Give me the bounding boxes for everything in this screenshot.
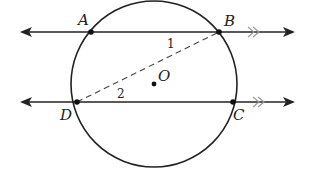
angle-2-label: 2 [117,87,125,101]
point-c [230,99,236,105]
label-d: D [59,106,72,124]
label-o: O [158,67,170,85]
label-c: C [233,106,245,124]
point-b [216,29,222,35]
point-o [152,82,157,87]
label-b: B [223,12,235,30]
segment-db [77,32,219,102]
geometry-diagram: A B D C O 1 2 [0,0,314,175]
point-a [88,29,94,35]
label-a: A [76,11,89,29]
line-ab [22,27,293,37]
point-d [74,99,80,105]
angle-1-label: 1 [167,37,175,51]
